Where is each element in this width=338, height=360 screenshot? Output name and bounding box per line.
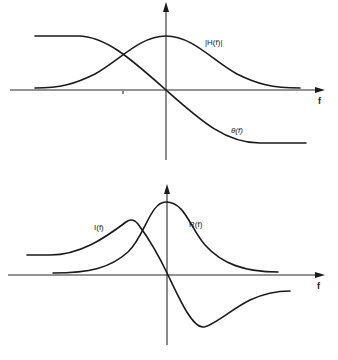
magnitude-label: |H(f)| — [205, 38, 222, 47]
bottom-y-axis-arrow-icon — [164, 184, 170, 194]
top-x-axis-label: f — [318, 96, 322, 106]
bottom-panel: f R(f) I(f) — [8, 184, 325, 345]
bottom-x-axis-arrow-icon — [315, 272, 325, 278]
real-part-label: R(f) — [189, 220, 203, 229]
top-y-axis-arrow-icon — [163, 2, 169, 12]
frequency-response-figure: f |H(f)| θ(f) f R(f) I(f) — [0, 0, 338, 360]
phase-label: θ(f) — [231, 126, 243, 135]
top-x-axis-arrow-icon — [315, 87, 325, 93]
magnitude-curve — [35, 36, 300, 88]
imaginary-part-label: I(f) — [94, 223, 104, 232]
top-panel: f |H(f)| θ(f) — [10, 2, 325, 160]
real-part-curve — [53, 202, 278, 273]
bottom-x-axis-label: f — [317, 281, 321, 291]
